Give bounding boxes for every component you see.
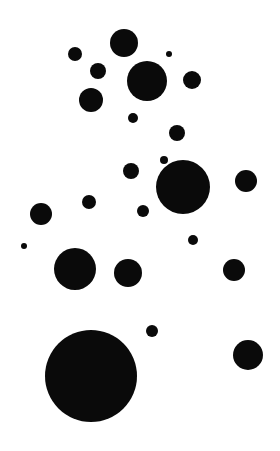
circle-dot	[128, 113, 138, 123]
circle-dot	[137, 205, 149, 217]
circle-dot	[233, 340, 263, 370]
circle-dot	[223, 259, 245, 281]
circle-dot	[82, 195, 96, 209]
circle-dot	[30, 203, 52, 225]
circle-dot	[127, 61, 167, 101]
circle-dot	[169, 125, 185, 141]
circle-dot	[110, 29, 138, 57]
circle-dot	[54, 248, 96, 290]
circle-dot	[45, 330, 137, 422]
circle-dot	[160, 156, 168, 164]
circle-dot	[235, 170, 257, 192]
circle-dot	[166, 51, 172, 57]
circle-dot	[90, 63, 106, 79]
circle-dot	[156, 160, 210, 214]
circle-dot	[188, 235, 198, 245]
circle-dot	[123, 163, 139, 179]
circle-dot	[68, 47, 82, 61]
circle-dot	[114, 259, 142, 287]
dot-pattern-canvas	[0, 0, 280, 451]
circle-dot	[79, 88, 103, 112]
circle-dot	[21, 243, 27, 249]
circle-dot	[183, 71, 201, 89]
circle-dot	[146, 325, 158, 337]
